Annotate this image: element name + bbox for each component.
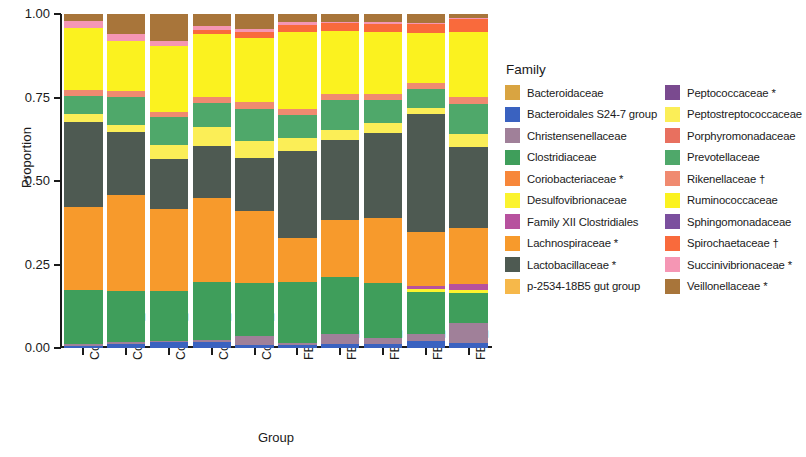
bar-segment bbox=[278, 151, 317, 238]
legend-color-swatch bbox=[665, 107, 680, 122]
bar-segment bbox=[150, 117, 189, 145]
legend-color-swatch bbox=[505, 128, 520, 143]
bar-segment bbox=[321, 23, 360, 30]
legend-item: Desulfovibrionaceae bbox=[505, 190, 657, 212]
legend-color-swatch bbox=[505, 85, 520, 100]
legend-color-swatch bbox=[665, 128, 680, 143]
legend-item-label: Succinivibrionaceae * bbox=[687, 259, 792, 271]
legend-item: Peptostreptococcaceae bbox=[665, 104, 802, 126]
legend-item: Lactobacillaceae * bbox=[505, 254, 657, 276]
bar-segment bbox=[278, 32, 317, 109]
bar-segment bbox=[364, 133, 403, 218]
bar-segment bbox=[107, 344, 146, 348]
legend-item-label: Sphingomonadaceae bbox=[687, 216, 791, 228]
bar-segment bbox=[407, 24, 446, 34]
y-tick-label: 0.00 bbox=[0, 340, 50, 355]
bar-segment bbox=[321, 31, 360, 94]
bar-segment bbox=[235, 158, 274, 211]
bar-segment bbox=[64, 14, 103, 21]
chart-figure: Proportion 0.000.250.500.751.00 Control_… bbox=[0, 0, 806, 457]
legend-item-label: Porphyromonadaceae bbox=[687, 130, 795, 142]
legend-item: Christensenellaceae bbox=[505, 125, 657, 147]
plot-area bbox=[62, 14, 490, 348]
legend-color-swatch bbox=[665, 214, 680, 229]
bar-segment bbox=[407, 89, 446, 108]
y-tick-mark bbox=[54, 97, 61, 99]
legend-item-label: Family XII Clostridiales bbox=[527, 216, 638, 228]
bar-segment bbox=[193, 146, 232, 198]
legend-item-label: Rikenellaceae † bbox=[687, 173, 765, 185]
bar-segment bbox=[107, 34, 146, 41]
legend-item: Porphyromonadaceae bbox=[665, 125, 802, 147]
x-tick-mark bbox=[125, 348, 127, 355]
bar-segment bbox=[193, 282, 232, 340]
bar-segment bbox=[407, 292, 446, 334]
bar-segment bbox=[107, 195, 146, 290]
bar-segment bbox=[64, 290, 103, 343]
bar-segment bbox=[449, 323, 488, 343]
bar-segment bbox=[449, 32, 488, 97]
stacked-bar bbox=[407, 14, 446, 348]
legend-item-label: Desulfovibrionaceae bbox=[527, 194, 627, 206]
bar-segment bbox=[321, 14, 360, 22]
stacked-bar bbox=[321, 14, 360, 348]
bar-segment bbox=[321, 140, 360, 220]
legend-color-swatch bbox=[665, 85, 680, 100]
bar-segment bbox=[364, 218, 403, 283]
bar-segment bbox=[64, 28, 103, 90]
legend-item: Succinivibrionaceae * bbox=[665, 254, 802, 276]
bar-segment bbox=[193, 14, 232, 26]
stacked-bar bbox=[278, 14, 317, 348]
bar-segment bbox=[407, 114, 446, 232]
stacked-bar bbox=[64, 14, 103, 348]
bar-segment bbox=[235, 109, 274, 141]
legend-item: Bacteroidales S24-7 group bbox=[505, 104, 657, 126]
x-tick-mark bbox=[296, 348, 298, 355]
x-tick-mark bbox=[382, 348, 384, 355]
legend-color-swatch bbox=[505, 171, 520, 186]
bar-segment bbox=[449, 104, 488, 134]
legend-item: Prevotellaceae bbox=[665, 147, 802, 169]
legend-color-swatch bbox=[505, 107, 520, 122]
bar-segment bbox=[150, 14, 189, 41]
stacked-bar bbox=[235, 14, 274, 348]
bar-segment bbox=[407, 334, 446, 341]
bar-segment bbox=[278, 345, 317, 348]
y-tick-mark bbox=[54, 264, 61, 266]
legend-color-swatch bbox=[665, 236, 680, 251]
legend-item: Lachnospiraceae * bbox=[505, 233, 657, 255]
legend-color-swatch bbox=[505, 214, 520, 229]
legend-column: Peptococcaceae *PeptostreptococcaceaePor… bbox=[665, 82, 802, 297]
bar-segment bbox=[364, 32, 403, 94]
legend-item-label: Coriobacteriaceae * bbox=[527, 173, 623, 185]
bar-segment bbox=[193, 103, 232, 127]
bar-segment bbox=[364, 123, 403, 132]
x-tick-mark bbox=[468, 348, 470, 355]
bar-segment bbox=[235, 345, 274, 348]
y-tick-mark bbox=[54, 180, 61, 182]
bar-segment bbox=[449, 147, 488, 229]
bar-segment bbox=[321, 344, 360, 348]
bar-segment bbox=[64, 114, 103, 121]
legend-item-label: Prevotellaceae bbox=[687, 151, 760, 163]
bar-segment bbox=[321, 100, 360, 130]
legend-color-swatch bbox=[665, 279, 680, 294]
legend-columns: BacteroidaceaeBacteroidales S24-7 groupC… bbox=[505, 82, 805, 297]
y-tick-mark bbox=[54, 347, 61, 349]
bar-segment bbox=[407, 33, 446, 83]
legend-item: Family XII Clostridiales bbox=[505, 211, 657, 233]
legend-item: p-2534-18B5 gut group bbox=[505, 276, 657, 298]
bar-segment bbox=[193, 342, 232, 348]
x-tick-mark bbox=[168, 348, 170, 355]
x-tick-mark bbox=[339, 348, 341, 355]
legend-item-label: Lactobacillaceae * bbox=[527, 259, 616, 271]
bar-segment bbox=[150, 209, 189, 291]
bar-segment bbox=[407, 232, 446, 286]
legend-color-swatch bbox=[505, 279, 520, 294]
legend-color-swatch bbox=[665, 150, 680, 165]
legend-color-swatch bbox=[505, 236, 520, 251]
stacked-bar bbox=[364, 14, 403, 348]
bar-segment bbox=[150, 291, 189, 341]
y-tick-label: 1.00 bbox=[0, 6, 50, 21]
bar-segment bbox=[150, 159, 189, 209]
